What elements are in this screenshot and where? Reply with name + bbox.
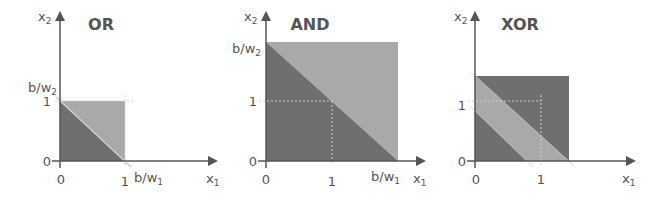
- xor-title: XOR: [501, 15, 539, 34]
- or-y-intercept-label: b/w2: [28, 80, 57, 97]
- and-y-axis-label: x2: [244, 9, 257, 26]
- and-y-intercept-label: b/w2: [232, 41, 261, 58]
- xor-y-axis-label: x2: [454, 9, 467, 26]
- panel-or: OR x2 x1 0 1 0 1 b/w2 b/w1: [28, 9, 219, 189]
- or-x-intercept-label: b/w1: [134, 170, 163, 187]
- or-x-axis-label: x1: [206, 171, 219, 188]
- or-y-axis-label: x2: [38, 9, 51, 26]
- panel-xor: XOR x2 x1 0 1 0 1: [454, 9, 635, 188]
- or-x-tick-1: 1: [121, 174, 129, 189]
- and-y-tick-1: 1: [249, 94, 257, 109]
- and-x-tick-1: 1: [328, 174, 336, 189]
- or-y-tick-0: 0: [43, 154, 51, 169]
- and-x-axis-label: x1: [413, 171, 426, 188]
- or-x-tick-0: 0: [57, 172, 65, 187]
- or-title: OR: [88, 15, 114, 34]
- xor-x-axis-label: x1: [622, 171, 635, 188]
- or-y-tick-1: 1: [43, 94, 51, 109]
- xor-x-tick-1: 1: [537, 172, 545, 187]
- xor-y-tick-0: 0: [458, 154, 466, 169]
- panel-and: AND x2 x1 0 1 0 1 b/w2 b/w1: [232, 9, 426, 189]
- and-x-intercept-label: b/w1: [371, 169, 400, 186]
- xor-y-tick-1: 1: [458, 98, 466, 113]
- xor-x-tick-0: 0: [472, 172, 480, 187]
- and-y-tick-0: 0: [249, 154, 257, 169]
- logic-gates-diagram: OR x2 x1 0 1 0 1 b/w2 b/w1 AND x2 x1 0 1…: [0, 0, 661, 199]
- and-x-tick-0: 0: [262, 172, 270, 187]
- and-title: AND: [290, 15, 329, 34]
